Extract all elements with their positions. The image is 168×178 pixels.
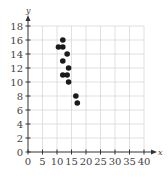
gridlines <box>28 26 144 152</box>
y-tick-label: 8 <box>17 91 23 102</box>
y-axis-arrow-icon <box>26 15 31 21</box>
x-tick-label: 15 <box>65 156 78 167</box>
y-axis-ticks: 024681012141618 <box>10 21 30 158</box>
y-tick-label: 16 <box>10 35 23 46</box>
y-tick-label: 14 <box>10 49 23 60</box>
data-point <box>66 79 72 85</box>
data-point <box>60 37 66 43</box>
data-points <box>56 37 80 106</box>
y-tick-label: 0 <box>17 147 23 158</box>
data-point <box>64 51 70 57</box>
x-tick-label: 0 <box>25 156 31 167</box>
data-point <box>75 100 81 106</box>
data-point <box>73 93 79 99</box>
y-tick-label: 10 <box>10 77 23 88</box>
x-tick-label: 5 <box>39 156 45 167</box>
data-point <box>60 58 66 64</box>
y-tick-label: 12 <box>10 63 23 74</box>
data-point <box>66 65 72 71</box>
x-tick-label: 25 <box>94 156 107 167</box>
y-tick-label: 4 <box>17 119 23 130</box>
data-point <box>64 72 70 78</box>
x-tick-label: 20 <box>80 156 93 167</box>
data-point <box>60 44 66 50</box>
y-axis-label: y <box>25 6 31 15</box>
y-tick-label: 2 <box>17 133 23 144</box>
x-axis-arrow-icon <box>151 150 157 155</box>
y-tick-label: 18 <box>10 21 23 32</box>
scatter-chart: 0510152025303540 024681012141618 x y <box>0 0 168 178</box>
x-axis-label: x <box>158 148 163 157</box>
axes <box>26 15 158 155</box>
x-tick-label: 35 <box>123 156 136 167</box>
y-tick-label: 6 <box>17 105 23 116</box>
x-tick-label: 30 <box>109 156 122 167</box>
x-tick-label: 10 <box>51 156 64 167</box>
x-tick-label: 40 <box>138 156 151 167</box>
